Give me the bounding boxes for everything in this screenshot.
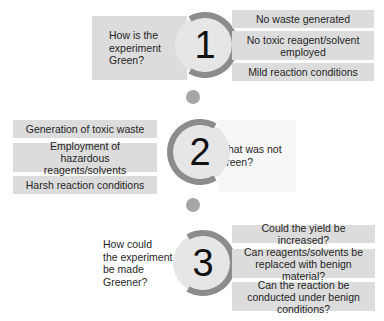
connector-dot	[186, 90, 200, 104]
step-1-item: No waste generated	[232, 10, 374, 28]
step-3-item: Can reagents/solvents be replaced with b…	[232, 249, 375, 278]
step-1-number-circle: 1	[170, 10, 240, 80]
step-2-number-circle: 2	[165, 117, 235, 187]
question-line: How could	[103, 238, 172, 251]
step-1-item: No toxic reagent/solvent employed	[232, 31, 374, 60]
question-line: the experiment	[103, 251, 172, 264]
step-2-item: Employment of hazardous reagents/solvent…	[13, 143, 157, 172]
step-3-item: Can the reaction be conducted under beni…	[232, 282, 375, 311]
step-3-number: 3	[168, 228, 238, 298]
question-line: Greener?	[103, 276, 172, 289]
step-1-item: Mild reaction conditions	[232, 63, 374, 81]
step-2-item: Harsh reaction conditions	[13, 176, 157, 194]
question-line: Green?	[109, 54, 161, 67]
step-2-item: Generation of toxic waste	[13, 120, 157, 138]
step-3-item: Could the yield be increased?	[232, 225, 375, 243]
step-3: How could the experiment be made Greener…	[0, 215, 384, 321]
step-1-number: 1	[170, 10, 240, 80]
question-line: experiment	[109, 42, 161, 55]
step-1-question: How is the experiment Green?	[109, 29, 161, 67]
question-line: be made	[103, 263, 172, 276]
step-2-number: 2	[165, 117, 235, 187]
question-line: How is the	[109, 29, 161, 42]
step-3-question: How could the experiment be made Greener…	[103, 238, 172, 288]
connector-dot	[186, 198, 200, 212]
step-1: How is the experiment Green? 1 No waste …	[0, 0, 384, 100]
step-3-number-circle: 3	[168, 228, 238, 298]
step-2: Generation of toxic waste Employment of …	[0, 110, 384, 205]
